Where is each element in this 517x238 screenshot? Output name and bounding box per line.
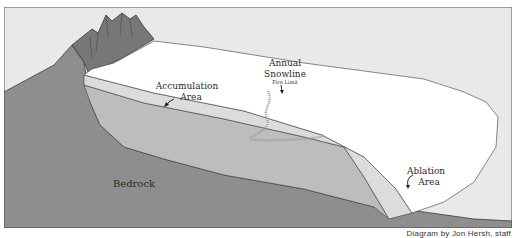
diagram-credit: Diagram by Jon Hersh, staff — [407, 229, 511, 238]
label-accumulation-area: Area — [179, 92, 202, 102]
label-ablation: Ablation — [406, 166, 445, 176]
label-annual: Annual — [268, 58, 301, 68]
label-accumulation: Accumulation — [155, 81, 219, 91]
label-firn-limit: Firn Limit — [272, 79, 298, 85]
glacier-diagram-svg: Accumulation Area Annual Snowline Firn L… — [4, 7, 512, 228]
label-ablation-area: Area — [417, 177, 440, 187]
label-bedrock: Bedrock — [113, 178, 156, 189]
label-snowline: Snowline — [264, 69, 306, 79]
glacier-diagram: Accumulation Area Annual Snowline Firn L… — [4, 7, 512, 228]
